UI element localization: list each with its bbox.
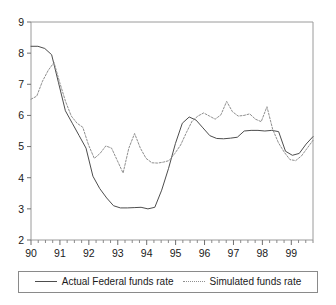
y-axis-tick-label: 4	[18, 172, 24, 184]
legend-swatch-dotted-icon	[183, 281, 205, 283]
x-axis-tick-label: 94	[141, 247, 153, 259]
x-axis-tick-label: 93	[112, 247, 124, 259]
x-axis-tick-label: 92	[83, 247, 95, 259]
legend-item-actual: Actual Federal funds rate	[35, 277, 174, 287]
figure: 2345678990919293949596979899 Actual Fede…	[0, 0, 336, 305]
line-chart: 2345678990919293949596979899	[0, 0, 336, 268]
legend-label-simulated: Simulated funds rate	[210, 277, 302, 287]
y-axis-tick-label: 2	[18, 234, 24, 246]
x-axis-tick-label: 96	[199, 247, 211, 259]
series-line-actual	[31, 46, 313, 209]
x-axis-tick-label: 91	[54, 247, 66, 259]
y-axis-tick-label: 6	[18, 109, 24, 121]
series-line-simulated	[31, 62, 313, 173]
y-axis-tick-label: 5	[18, 140, 24, 152]
x-axis-tick-label: 99	[285, 247, 297, 259]
legend-label-actual: Actual Federal funds rate	[62, 277, 174, 287]
chart-plot-area: 2345678990919293949596979899	[0, 0, 336, 268]
x-axis-tick-label: 97	[228, 247, 240, 259]
y-axis-tick-label: 3	[18, 203, 24, 215]
x-axis-tick-label: 95	[170, 247, 182, 259]
x-axis-tick-label: 90	[25, 247, 37, 259]
legend-item-simulated: Simulated funds rate	[183, 277, 302, 287]
x-axis-tick-label: 98	[257, 247, 269, 259]
y-axis-tick-label: 7	[18, 78, 24, 90]
legend-swatch-solid-icon	[35, 281, 57, 283]
chart-legend: Actual Federal funds rate Simulated fund…	[18, 271, 318, 293]
y-axis-tick-label: 9	[18, 16, 24, 28]
y-axis-tick-label: 8	[18, 47, 24, 59]
